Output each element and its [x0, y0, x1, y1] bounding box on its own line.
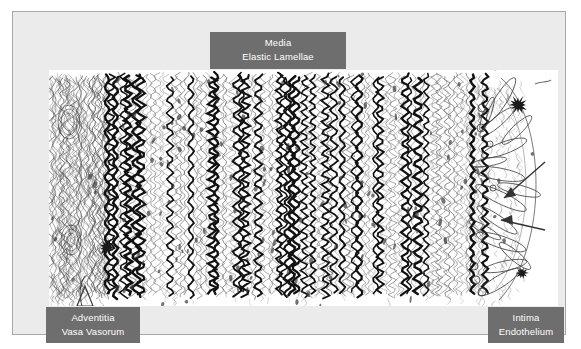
histology-illustration — [49, 70, 558, 306]
callout-intima-secondary: Endothelium — [498, 325, 554, 339]
callout-media-secondary: Elastic Lamellae — [220, 50, 336, 64]
figure-panel: Media Elastic Lamellae Adventitia Vasa V… — [12, 11, 566, 335]
callout-media: Media Elastic Lamellae — [210, 32, 346, 69]
callout-intima: Intima Endothelium — [488, 307, 564, 343]
callout-intima-primary: Intima — [498, 311, 554, 325]
callout-adventitia-secondary: Vasa Vasorum — [56, 325, 130, 339]
callout-adventitia: Adventitia Vasa Vasorum — [46, 307, 140, 343]
histology-artwork — [49, 70, 558, 306]
callout-adventitia-primary: Adventitia — [56, 311, 130, 325]
figure-root: Media Elastic Lamellae Adventitia Vasa V… — [0, 0, 581, 349]
callout-media-primary: Media — [220, 36, 336, 50]
